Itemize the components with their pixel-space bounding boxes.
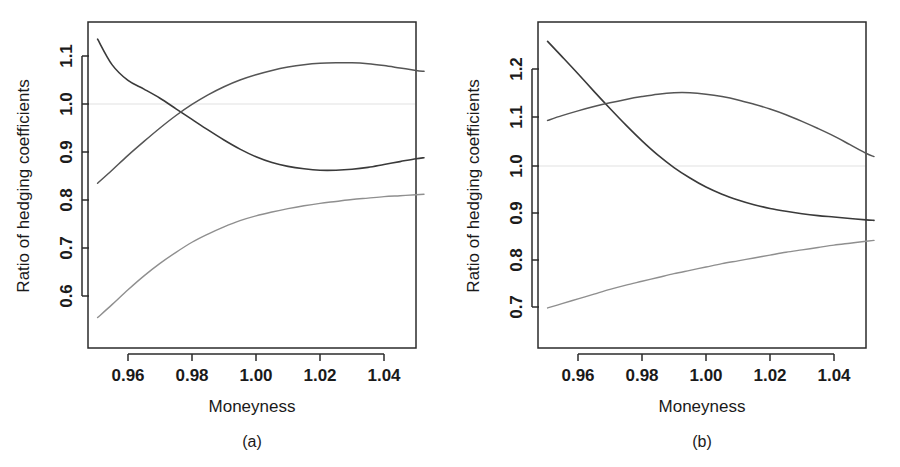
- panel-b: Ratio of hedging coefficients 1.2 1.1 1.…: [450, 0, 900, 467]
- panel-a-curve-increasing: [98, 63, 424, 184]
- panel-a-x-axis-title: Moneyness: [209, 397, 296, 416]
- panel-b-xtick-5: 1.04: [817, 366, 851, 385]
- panel-a-xtick-1: 0.96: [111, 366, 144, 385]
- panel-a: Ratio of hedging coefficients 1.1 1.0 0.…: [0, 0, 450, 467]
- panel-a-xtick-3: 1.00: [239, 366, 272, 385]
- panel-a-xtick-5: 1.04: [367, 366, 401, 385]
- panel-b-curve-decreasing: [548, 41, 874, 220]
- figure-container: Ratio of hedging coefficients 1.1 1.0 0.…: [0, 0, 900, 467]
- panel-b-y-axis-title: Ratio of hedging coefficients: [464, 79, 483, 292]
- panel-a-ytick-1: 1.1: [57, 44, 76, 68]
- panel-b-xtick-1: 0.96: [561, 366, 594, 385]
- panel-a-plot: Ratio of hedging coefficients 1.1 1.0 0.…: [0, 0, 450, 467]
- panel-a-y-axis-title: Ratio of hedging coefficients: [14, 79, 33, 292]
- panel-a-caption: (a): [242, 433, 262, 450]
- panel-b-x-axis-title: Moneyness: [659, 397, 746, 416]
- panel-b-ytick-4: 0.9: [507, 201, 526, 225]
- panel-a-ytick-2: 1.0: [57, 92, 76, 116]
- panel-b-ytick-2: 1.1: [507, 105, 526, 129]
- panel-b-xtick-2: 0.98: [625, 366, 658, 385]
- panel-a-plot-frame: [88, 22, 416, 348]
- panel-b-plot: Ratio of hedging coefficients 1.2 1.1 1.…: [450, 0, 900, 467]
- panel-b-caption: (b): [692, 433, 712, 450]
- panel-a-curve-lower: [98, 194, 424, 317]
- panel-b-ytick-3: 1.0: [507, 154, 526, 178]
- panel-a-xtick-2: 0.98: [175, 366, 208, 385]
- panel-b-ytick-1: 1.2: [507, 57, 526, 81]
- panel-b-curve-lower: [548, 240, 874, 308]
- panel-b-ytick-6: 0.7: [507, 295, 526, 319]
- panel-a-xtick-4: 1.02: [303, 366, 336, 385]
- panel-a-ytick-3: 0.9: [57, 140, 76, 164]
- panel-b-curve-hump: [548, 93, 874, 157]
- panel-a-ytick-6: 0.6: [57, 284, 76, 308]
- panel-a-curve-decreasing: [98, 39, 424, 170]
- panel-b-ytick-5: 0.8: [507, 248, 526, 272]
- panel-a-ytick-5: 0.7: [57, 236, 76, 260]
- panel-b-xtick-3: 1.00: [689, 366, 722, 385]
- panel-a-ytick-4: 0.8: [57, 188, 76, 212]
- panel-b-xtick-4: 1.02: [753, 366, 786, 385]
